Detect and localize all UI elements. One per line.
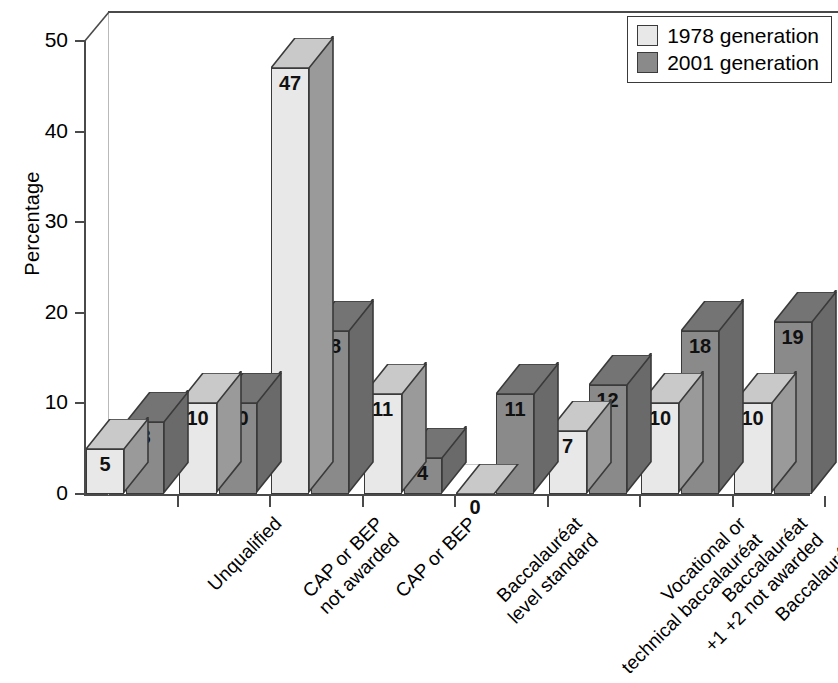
x-tick-mark [547,496,549,507]
legend-swatch [637,25,658,46]
bar-value-label: 47 [271,72,309,95]
x-category-label: Baccalauréatlevel standard [487,512,603,628]
legend-item: 2001 generation [637,49,819,76]
legend-swatch [637,52,658,73]
y-tick-label: 30 [24,209,68,233]
y-tick-mark [75,493,85,495]
axis-corner-diagonal-top [84,11,110,43]
bar-value-label: 18 [681,335,719,358]
x-tick-mark [177,496,179,507]
bar-value-label: 5 [86,453,124,476]
bar-top-face [589,355,653,387]
bar-value-label: 19 [774,326,812,349]
x-tick-mark [732,496,734,507]
x-tick-mark [269,496,271,507]
y-tick-label: 10 [24,390,68,414]
x-tick-mark [639,496,641,507]
bar-top-face [271,38,335,70]
y-tick-mark [75,40,85,42]
bar-top-face [496,364,560,396]
x-tick-mark [824,496,826,507]
x-category-label: Unqualified [202,512,285,595]
bar-value-label: 11 [496,398,534,421]
legend-label: 1978 generation [667,24,819,48]
legend-label: 2001 generation [667,51,819,75]
chart-legend: 1978 generation2001 generation [627,16,832,83]
y-tick-mark [75,131,85,133]
bar-3d: 5 [86,419,124,494]
y-tick-mark [75,221,85,223]
bar-top-face [681,301,745,333]
y-tick-mark [75,402,85,404]
x-label-line: CAP or BEP [390,512,480,602]
y-tick-label: 50 [24,28,68,52]
x-axis-line [84,494,810,496]
x-label-line: Unqualified [202,512,285,595]
back-wall-top-edge [108,11,838,13]
x-category-label: CAP or BEPnot awarded [298,512,404,618]
y-tick-label: 40 [24,119,68,143]
y-tick-label: 0 [24,481,68,505]
chart-canvas: Percentage 01020304050 19101810127110411… [0,0,838,683]
legend-item: 1978 generation [637,22,819,49]
bar-side-face [309,36,335,494]
y-tick-label: 20 [24,300,68,324]
x-category-label: CAP or BEP [390,512,480,602]
x-tick-mark [362,496,364,507]
y-tick-mark [75,312,85,314]
bar-top-face [774,292,838,324]
bar-top-face [86,419,150,451]
